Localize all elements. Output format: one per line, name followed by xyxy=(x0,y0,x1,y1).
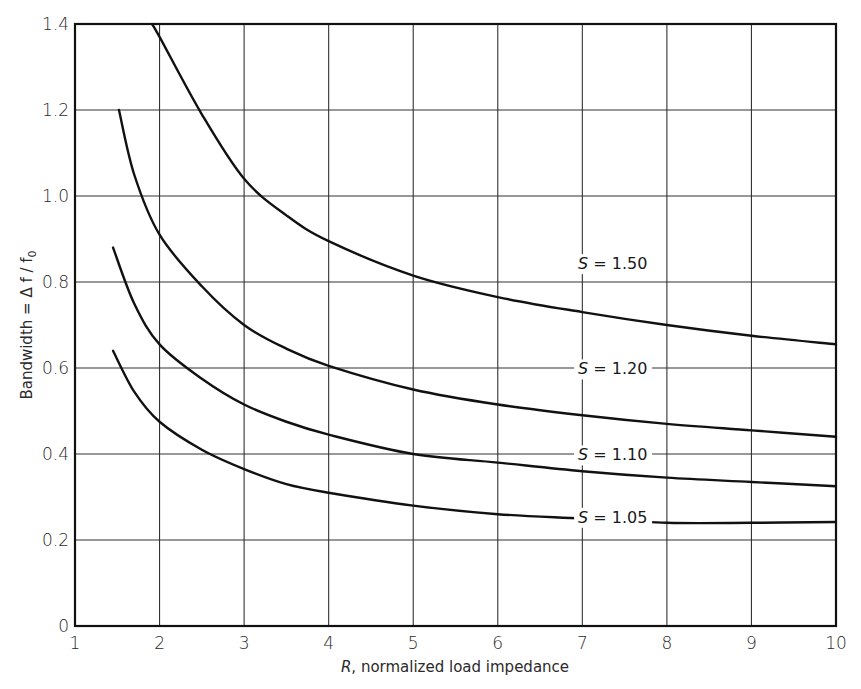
y-tick-label: 0.4 xyxy=(42,444,69,464)
x-axis-label: R, normalized load impedance xyxy=(341,658,569,676)
x-tick-label: 4 xyxy=(323,633,334,653)
x-tick-label: 7 xyxy=(577,633,588,653)
y-axis-label: Bandwidth = Δ f / f0 xyxy=(18,250,39,399)
x-tick-label: 6 xyxy=(492,633,503,653)
y-tick-label: 1.0 xyxy=(42,186,69,206)
x-axis-variable: R xyxy=(341,658,351,676)
bandwidth-chart: 12345678910 00.20.40.60.81.01.21.4 S = 1… xyxy=(0,0,861,689)
y-tick-label: 0.8 xyxy=(42,272,69,292)
y-tick-label: 1.2 xyxy=(42,100,69,120)
curve-labels: S = 1.50S = 1.20S = 1.10S = 1.05 xyxy=(574,254,652,528)
y-axis-subscript: 0 xyxy=(26,250,39,257)
x-tick-label: 3 xyxy=(239,633,250,653)
x-tick-label: 10 xyxy=(825,633,847,653)
grid-lines xyxy=(75,24,836,626)
curve-label: S = 1.05 xyxy=(578,508,647,527)
y-tick-label: 0.2 xyxy=(42,530,69,550)
x-tick-label: 8 xyxy=(661,633,672,653)
curve-105 xyxy=(113,351,836,523)
x-tick-label: 9 xyxy=(746,633,757,653)
y-tick-label: 0.6 xyxy=(42,358,69,378)
curve-label: S = 1.50 xyxy=(578,254,647,273)
x-axis-description: , normalized load impedance xyxy=(351,658,569,676)
curve-150 xyxy=(152,24,836,344)
x-tick-label: 2 xyxy=(154,633,165,653)
y-axis-ticks: 00.20.40.60.81.01.21.4 xyxy=(42,14,69,636)
curve-120 xyxy=(119,110,836,437)
curves xyxy=(113,24,836,523)
plot-frame xyxy=(75,24,836,626)
x-axis-ticks: 12345678910 xyxy=(70,633,847,653)
curve-label: S = 1.20 xyxy=(578,359,647,378)
y-tick-label: 1.4 xyxy=(42,14,69,34)
curve-110 xyxy=(113,248,836,487)
y-axis-text: Bandwidth = Δ f / f xyxy=(18,257,36,400)
curve-label: S = 1.10 xyxy=(578,445,647,464)
y-tick-label: 0 xyxy=(58,616,69,636)
x-tick-label: 5 xyxy=(408,633,419,653)
x-tick-label: 1 xyxy=(70,633,81,653)
